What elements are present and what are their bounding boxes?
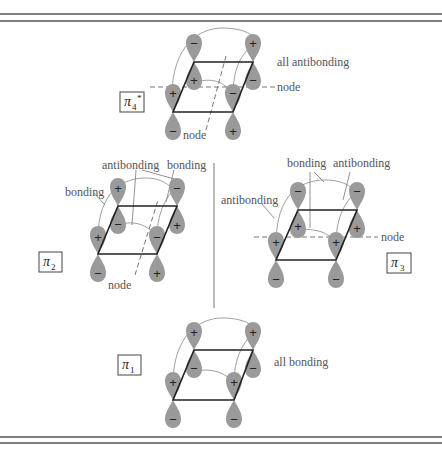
svg-text:π: π	[43, 254, 51, 269]
mo-diagram: − + + − + − − + all antibonding node nod…	[0, 0, 442, 449]
svg-text:−: −	[229, 86, 237, 101]
svg-text:+: +	[332, 235, 340, 250]
svg-text:+: +	[294, 219, 302, 234]
svg-text:+: +	[249, 325, 257, 340]
svg-text:1: 1	[130, 365, 135, 375]
svg-text:−: −	[353, 184, 361, 199]
svg-text:−: −	[190, 361, 198, 376]
svg-text:−: −	[272, 272, 280, 287]
label-box-pi2: π 2	[39, 252, 62, 272]
svg-text:π: π	[391, 255, 399, 270]
svg-text:π: π	[124, 94, 132, 109]
label-box-pi1: π 1	[118, 355, 141, 375]
svg-text:−: −	[94, 266, 102, 281]
svg-text:+: +	[153, 266, 161, 281]
svg-text:+: +	[190, 73, 198, 88]
label-bonding-left: bonding	[65, 185, 104, 199]
label-antibonding-left: antibonding	[221, 193, 278, 207]
svg-text:3: 3	[400, 263, 405, 273]
svg-text:+: +	[229, 124, 237, 139]
svg-text:+: +	[169, 375, 177, 390]
svg-text:−: −	[114, 217, 122, 232]
label-all-antibonding: all antibonding	[277, 55, 349, 69]
svg-text:π: π	[122, 357, 130, 372]
label-node-horizontal: node	[277, 80, 300, 94]
svg-text:−: −	[169, 412, 177, 427]
frame-bottom	[0, 437, 442, 443]
svg-text:−: −	[190, 36, 198, 51]
label-bonding-right: bonding	[167, 158, 206, 172]
label-node-diagonal: node	[183, 128, 206, 142]
svg-text:+: +	[353, 221, 361, 236]
orbital-pi4-star: − + + − + − − + all antibonding node nod…	[120, 28, 349, 142]
svg-text:+: +	[249, 36, 257, 51]
label-node: node	[108, 278, 131, 292]
svg-text:+: +	[173, 218, 181, 233]
label-antibonding-top: antibonding	[333, 156, 390, 170]
svg-text:*: *	[137, 93, 142, 103]
label-box-pi3: π 3	[387, 253, 411, 273]
svg-text:+: +	[230, 375, 238, 390]
orbital-pi1: + − + − + − + − all bonding π 1	[118, 318, 328, 428]
svg-text:−: −	[169, 124, 177, 139]
frame-top	[0, 14, 442, 21]
orbital-pi2: + − − + + − − + bonding antibonding bond…	[39, 158, 206, 292]
label-antibonding: antibonding	[102, 158, 159, 172]
svg-text:+: +	[272, 235, 280, 250]
label-all-bonding: all bonding	[274, 355, 328, 369]
svg-text:−: −	[153, 230, 161, 245]
svg-text:2: 2	[51, 262, 56, 272]
orbital-pi3: − + − + + − + − bonding antibonding anti…	[221, 156, 411, 288]
svg-text:−: −	[332, 272, 340, 287]
svg-text:+: +	[169, 86, 177, 101]
label-box-pi4-star: π 4 *	[120, 92, 144, 112]
svg-text:+: +	[190, 325, 198, 340]
svg-text:−: −	[173, 181, 181, 196]
svg-text:4: 4	[132, 102, 137, 112]
svg-text:−: −	[249, 361, 257, 376]
svg-text:−: −	[249, 73, 257, 88]
svg-text:+: +	[94, 230, 102, 245]
label-node: node	[381, 230, 404, 244]
svg-text:−: −	[294, 184, 302, 199]
svg-text:+: +	[114, 181, 122, 196]
svg-text:−: −	[230, 412, 238, 427]
label-bonding: bonding	[287, 156, 326, 170]
